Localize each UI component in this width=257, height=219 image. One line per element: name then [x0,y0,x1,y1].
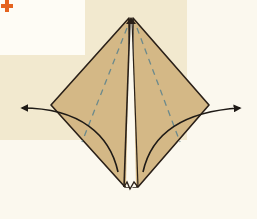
left-flap [51,18,129,187]
origami-figure [0,0,257,219]
right-flap [133,18,209,187]
origami-diagram [0,0,257,219]
